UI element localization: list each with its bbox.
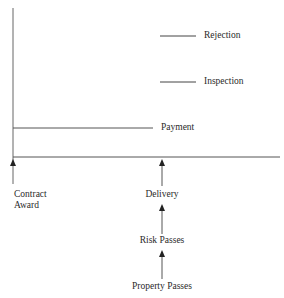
rejection-label: Rejection [204,30,240,41]
delivery-label: Delivery [145,189,178,200]
contract-award-line1: Contract [14,189,47,200]
property-passes-label: Property Passes [132,281,192,292]
contract-award-label: Contract Award [14,189,47,211]
risk-passes-label: Risk Passes [140,235,185,246]
property-arrow-icon [159,250,165,257]
inspection-label: Inspection [204,76,244,87]
contract-award-line2: Award [14,200,47,211]
risk-arrow-icon [159,204,165,211]
payment-label: Payment [161,122,194,133]
contract-award-arrow-icon [10,159,16,166]
timeline-diagram [0,0,284,298]
delivery-arrow-icon [159,159,165,166]
